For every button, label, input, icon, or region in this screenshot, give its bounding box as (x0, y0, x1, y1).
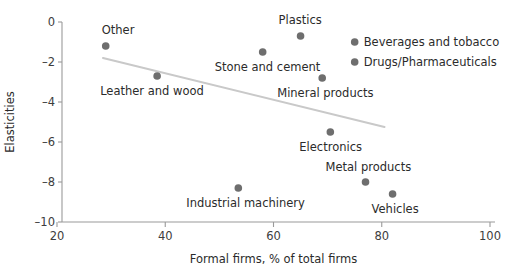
data-point-marker (351, 38, 359, 46)
y-axis-title: Elasticities (3, 91, 17, 153)
data-point-label: Industrial machinery (186, 196, 305, 210)
data-point-marker (351, 58, 359, 66)
data-point-marker (389, 190, 397, 198)
data-point-label: Leather and wood (100, 84, 204, 98)
data-point-label: Beverages and tobacco (364, 35, 500, 49)
data-point-label: Vehicles (372, 202, 419, 216)
x-tick-label: 40 (158, 229, 173, 243)
data-point-marker (153, 72, 161, 80)
chart-container: 0–2–4–6–8–1020406080100 OtherLeather and… (0, 0, 513, 275)
y-tick-label: 0 (48, 15, 55, 29)
x-tick-label: 60 (266, 229, 281, 243)
point-labels: OtherLeather and woodIndustrial machiner… (100, 13, 499, 216)
data-point-marker (327, 128, 335, 136)
data-point-marker (235, 184, 243, 192)
x-tick-label: 80 (374, 229, 389, 243)
y-tick-label: –2 (42, 55, 55, 69)
data-point-marker (259, 48, 267, 56)
data-point-label: Electronics (299, 140, 362, 154)
data-point-marker (102, 42, 110, 50)
y-tick-label: –6 (42, 135, 55, 149)
data-point-label: Plastics (279, 13, 322, 27)
data-point-marker (362, 178, 370, 186)
data-point-label: Other (102, 23, 135, 37)
x-tick-label: 100 (479, 229, 501, 243)
y-tick-label: –4 (42, 95, 55, 109)
data-point-label: Metal products (326, 160, 412, 174)
y-tick-label: –8 (42, 175, 55, 189)
data-point-marker (318, 74, 326, 82)
scatter-plot: 0–2–4–6–8–1020406080100 OtherLeather and… (0, 0, 513, 275)
x-tick-label: 20 (50, 229, 65, 243)
data-point-marker (297, 32, 305, 40)
y-tick-label: –10 (35, 215, 55, 229)
data-point-label: Stone and cement (215, 60, 321, 74)
data-point-label: Drugs/Pharmaceuticals (364, 55, 497, 69)
x-axis-title: Formal firms, % of total firms (190, 252, 357, 266)
data-point-label: Mineral products (277, 86, 373, 100)
